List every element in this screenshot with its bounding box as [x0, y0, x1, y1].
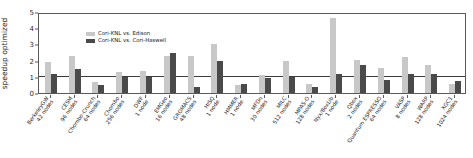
legend-swatch — [86, 32, 95, 36]
bar-group — [39, 62, 63, 93]
legend-label: Cori-KNL vs. Cori-Haswell — [98, 38, 166, 43]
x-tick-mark — [216, 95, 217, 98]
plot-inner — [39, 14, 465, 93]
bar — [194, 87, 200, 93]
x-tick-label: GROMACS48 nodes — [172, 96, 197, 125]
bar — [312, 87, 318, 93]
bar — [431, 74, 437, 93]
x-axis-labels: BerkeleyGW42 nodesCESM96 nodesChombo-Cru… — [38, 95, 466, 157]
x-tick-mark — [145, 95, 146, 98]
bar — [75, 69, 81, 93]
x-tick-label: MPAS-O128 nodes — [291, 96, 316, 126]
bar-group — [372, 68, 396, 93]
bar — [265, 78, 271, 93]
y-tick-label: 2 — [30, 58, 34, 65]
bar — [122, 77, 128, 93]
bar-group — [229, 84, 253, 93]
x-tick-mark — [311, 95, 312, 98]
bar — [146, 77, 152, 93]
x-tick-mark — [50, 95, 51, 98]
y-tick-label: 0 — [30, 91, 34, 98]
bar — [384, 80, 390, 93]
x-tick-label: HMMER1 node — [224, 96, 245, 119]
x-tick-mark — [240, 95, 241, 98]
x-tick-mark — [359, 95, 360, 98]
bar-group — [301, 84, 325, 93]
x-tick-mark — [264, 95, 265, 98]
x-tick-label: Chombo256 nodes — [100, 96, 125, 126]
x-tick-label: XGC11024 nodes — [431, 96, 458, 128]
bar-group — [205, 44, 229, 93]
x-tick-mark — [454, 95, 455, 98]
legend-swatch — [86, 39, 95, 43]
x-tick-label: DWF1 node — [130, 96, 150, 118]
bar-group — [396, 57, 420, 93]
x-tick-mark — [335, 95, 336, 98]
bar — [98, 85, 104, 93]
y-tick-label: 5 — [30, 10, 34, 17]
x-tick-label: VASP8 nodes — [390, 96, 411, 120]
x-tick-mark — [97, 95, 98, 98]
x-tick-mark — [288, 95, 289, 98]
x-tick-label: HISQ1 node — [201, 96, 221, 118]
legend-label: Cori-KNL vs. Edison — [98, 31, 150, 36]
bar — [289, 77, 295, 93]
bar-group — [110, 72, 134, 93]
plot-area: Cori-KNL vs. EdisonCori-KNL vs. Cori-Has… — [38, 13, 466, 94]
legend-item: Cori-KNL vs. Edison — [86, 31, 166, 36]
speedup-bar-chart: speedup optimized 012345 Cori-KNL vs. Ed… — [0, 0, 473, 158]
bar-group — [158, 53, 182, 94]
bar — [51, 74, 57, 93]
bar — [241, 84, 247, 93]
x-tick-label: MILC512 nodes — [267, 96, 292, 126]
x-tick-label: BerkeleyGW42 nodes — [26, 96, 54, 129]
y-tick-label: 3 — [30, 42, 34, 49]
bar-group — [443, 81, 467, 93]
bar-group — [253, 75, 277, 93]
bar — [170, 53, 176, 94]
x-tick-mark — [121, 95, 122, 98]
bar-group — [277, 61, 301, 93]
bar — [360, 65, 366, 93]
bar-group — [419, 65, 443, 93]
x-tick-label: Qbox2 nodes — [342, 96, 363, 120]
x-tick-mark — [407, 95, 408, 98]
bar — [217, 61, 223, 93]
y-axis-ticks: 012345 — [0, 13, 38, 94]
bar-group — [348, 60, 372, 93]
bar-group — [134, 71, 158, 93]
bar-group — [87, 82, 111, 93]
x-tick-mark — [430, 95, 431, 98]
x-tick-mark — [74, 95, 75, 98]
bar — [455, 81, 461, 93]
bar-group — [324, 18, 348, 93]
x-tick-label: MFDn30 nodes — [245, 96, 268, 123]
legend: Cori-KNL vs. EdisonCori-KNL vs. Cori-Has… — [86, 31, 166, 44]
bar-group — [182, 56, 206, 93]
legend-item: Cori-KNL vs. Cori-Haswell — [86, 38, 166, 43]
y-tick-label: 4 — [30, 26, 34, 33]
bar — [336, 74, 342, 93]
x-tick-mark — [383, 95, 384, 98]
bar-group — [63, 56, 87, 93]
bar — [408, 74, 414, 93]
y-tick-label: 1 — [30, 74, 34, 81]
x-tick-mark — [169, 95, 170, 98]
x-tick-label: EMGeo16 nodes — [150, 96, 173, 123]
x-tick-label: Nyx/BoxLib1 node — [313, 96, 339, 127]
